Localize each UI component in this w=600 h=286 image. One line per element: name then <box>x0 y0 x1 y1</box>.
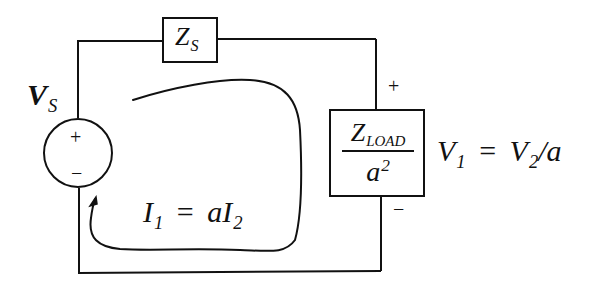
source-minus-sign: − <box>71 163 82 183</box>
source-voltage-sub: S <box>48 95 57 116</box>
voltage-equation: V1 = V2/a <box>437 136 562 166</box>
source-impedance-sub: S <box>190 37 198 54</box>
wire-left-top <box>78 41 162 118</box>
arrowhead-icon <box>90 197 97 206</box>
source-impedance-label: ZS <box>175 24 199 50</box>
load-impedance-fraction: ZLOAD a2 <box>342 118 414 188</box>
load-denominator: a2 <box>342 152 414 188</box>
source-impedance-main: Z <box>175 22 189 51</box>
load-plus-sign: + <box>388 76 399 96</box>
load-minus-sign: − <box>393 199 404 219</box>
source-voltage-main: V <box>27 78 47 111</box>
load-numerator: ZLOAD <box>342 118 414 152</box>
source-plus-sign: + <box>70 127 81 147</box>
source-voltage-label: VS <box>27 80 57 110</box>
current-equation: I1 = aI2 <box>143 197 243 227</box>
